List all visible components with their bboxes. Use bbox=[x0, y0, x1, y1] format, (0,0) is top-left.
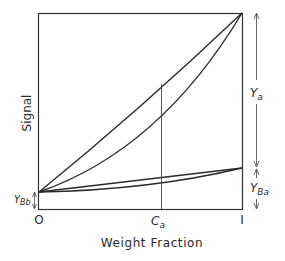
x-tick-0: O bbox=[34, 213, 43, 227]
x-tick-ca: Ca bbox=[151, 214, 165, 230]
ya-label: Ya bbox=[250, 86, 263, 102]
yba-label: YBa bbox=[250, 181, 269, 197]
upper-linear-curve bbox=[39, 13, 242, 192]
ybb-label: YBb bbox=[14, 194, 31, 207]
ybb-bracket bbox=[33, 192, 37, 209]
upper-curved-curve bbox=[39, 13, 242, 192]
y-axis-label: Signal bbox=[20, 95, 34, 132]
x-tick-1: I bbox=[240, 213, 244, 227]
x-axis-label: Weight Fraction bbox=[101, 236, 204, 250]
calibration-diagram: Ya YBa YBb Signal O Ca I Weight Fraction bbox=[0, 0, 285, 261]
